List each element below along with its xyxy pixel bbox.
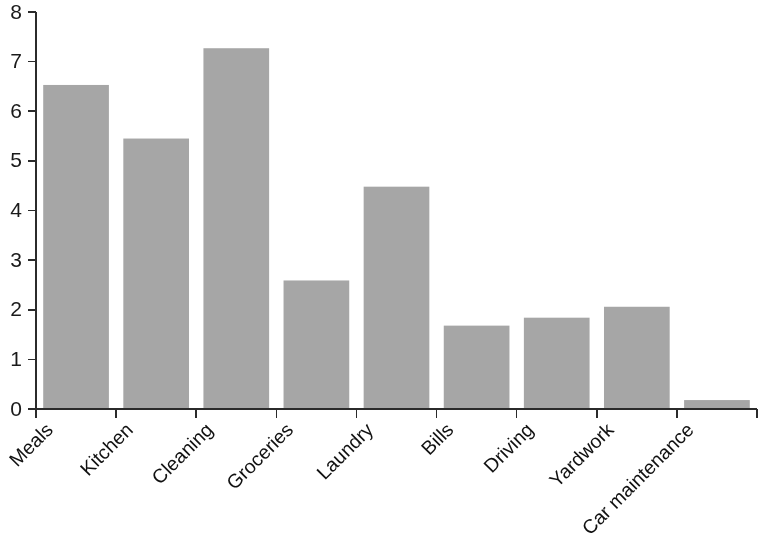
bar-groceries: [284, 280, 350, 409]
bar-laundry: [364, 187, 430, 409]
x-tick-label-driving: Driving: [479, 418, 537, 476]
y-tick-label-3: 3: [10, 248, 22, 271]
bar-kitchen: [123, 139, 189, 409]
y-tick-label-2: 2: [10, 297, 22, 320]
y-tick-label-7: 7: [10, 49, 22, 72]
bar-bills: [444, 326, 510, 409]
bar-chart: 012345678 MealsKitchenCleaningGroceriesL…: [0, 0, 760, 553]
y-axis-ticks: [28, 12, 36, 409]
bar-car-maintenance: [684, 400, 750, 409]
x-tick-label-meals: Meals: [5, 418, 58, 471]
x-tick-label-bills: Bills: [417, 418, 458, 459]
bar-meals: [43, 85, 109, 409]
y-tick-label-1: 1: [10, 347, 22, 370]
x-tick-label-yardwork: Yardwork: [545, 418, 618, 491]
x-axis-tick-labels: MealsKitchenCleaningGroceriesLaundryBill…: [5, 418, 698, 539]
bars-group: [43, 48, 750, 409]
y-tick-label-4: 4: [10, 198, 22, 221]
x-tick-label-laundry: Laundry: [312, 418, 378, 484]
bar-driving: [524, 318, 590, 409]
y-axis: 012345678: [10, 0, 36, 420]
y-tick-label-5: 5: [10, 148, 22, 171]
x-tick-label-groceries: Groceries: [222, 418, 297, 493]
y-tick-label-0: 0: [10, 397, 22, 420]
x-tick-label-cleaning: Cleaning: [147, 418, 217, 488]
bar-cleaning: [203, 48, 269, 409]
chart-canvas: 012345678 MealsKitchenCleaningGroceriesL…: [0, 0, 760, 553]
plot-area: [36, 12, 757, 409]
bar-yardwork: [604, 307, 670, 409]
y-tick-label-6: 6: [10, 99, 22, 122]
x-axis: MealsKitchenCleaningGroceriesLaundryBill…: [5, 409, 757, 539]
y-tick-label-8: 8: [10, 0, 22, 23]
x-tick-label-kitchen: Kitchen: [75, 418, 137, 480]
y-axis-tick-labels: 012345678: [10, 0, 22, 420]
x-axis-ticks: [36, 409, 757, 418]
